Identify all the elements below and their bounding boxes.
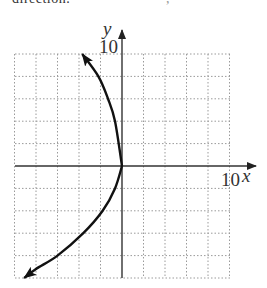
graph [0, 0, 267, 288]
y-tick-label: 10 [99, 37, 118, 56]
x-axis-label: x [242, 166, 250, 185]
x-tick-label: 10 [221, 170, 240, 189]
curve-upper-branch [82, 54, 122, 166]
curve-lower-branch [24, 166, 122, 278]
